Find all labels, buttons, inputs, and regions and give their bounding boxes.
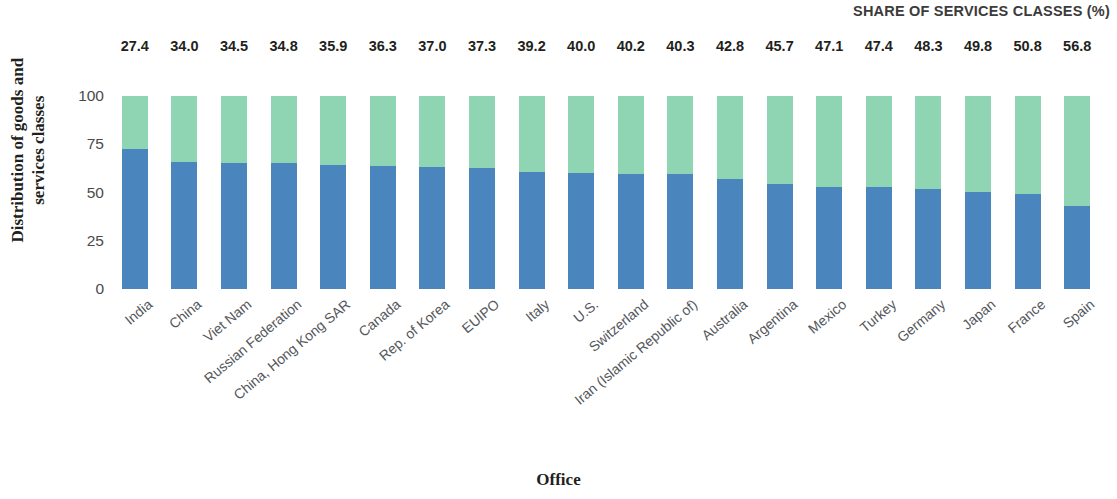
bar-segment-services[interactable] (122, 96, 148, 149)
bar-segment-goods[interactable] (866, 187, 892, 289)
stacked-bar[interactable] (717, 96, 743, 289)
bar-segment-goods[interactable] (667, 174, 693, 289)
x-axis-category-label: Australia (698, 296, 750, 343)
bar-value-label: 34.5 (220, 38, 248, 54)
bar-segment-goods[interactable] (816, 187, 842, 289)
bar-group[interactable] (370, 96, 396, 289)
x-axis-category-label: U.S. (570, 296, 601, 326)
bar-segment-services[interactable] (1064, 96, 1090, 206)
bar-group[interactable] (816, 96, 842, 289)
stacked-bar[interactable] (221, 96, 247, 289)
bar-segment-goods[interactable] (122, 149, 148, 289)
bar-group[interactable] (1064, 96, 1090, 289)
bar-segment-goods[interactable] (1064, 206, 1090, 289)
bar-value-label: 45.7 (765, 38, 793, 54)
bar-segment-services[interactable] (370, 96, 396, 166)
y-axis-tick-75: 75 (87, 135, 104, 153)
bar-value-label: 40.0 (567, 38, 595, 54)
bar-segment-services[interactable] (915, 96, 941, 189)
bar-segment-services[interactable] (965, 96, 991, 192)
bar-group[interactable] (469, 96, 495, 289)
bar-segment-services[interactable] (568, 96, 594, 173)
bar-segment-goods[interactable] (519, 172, 545, 289)
bar-segment-goods[interactable] (469, 168, 495, 289)
bar-group[interactable] (519, 96, 545, 289)
bar-segment-goods[interactable] (370, 166, 396, 289)
bar-segment-goods[interactable] (419, 167, 445, 289)
bar-segment-services[interactable] (320, 96, 346, 165)
y-axis-tick-labels: 1007550250 (56, 96, 104, 289)
stacked-bar[interactable] (370, 96, 396, 289)
bar-segment-goods[interactable] (618, 174, 644, 289)
bar-segment-goods[interactable] (717, 179, 743, 289)
stacked-bar[interactable] (320, 96, 346, 289)
bar-group[interactable] (122, 96, 148, 289)
bar-value-label: 39.2 (517, 38, 545, 54)
bar-segment-goods[interactable] (171, 162, 197, 289)
stacked-bar[interactable] (816, 96, 842, 289)
bar-segment-goods[interactable] (271, 163, 297, 289)
bar-segment-services[interactable] (816, 96, 842, 187)
stacked-bar[interactable] (767, 96, 793, 289)
bar-segment-goods[interactable] (568, 173, 594, 289)
stacked-bar[interactable] (965, 96, 991, 289)
stacked-bar[interactable] (568, 96, 594, 289)
bar-value-label: 40.3 (666, 38, 694, 54)
bar-group[interactable] (1015, 96, 1041, 289)
stacked-bar[interactable] (419, 96, 445, 289)
bar-group[interactable] (618, 96, 644, 289)
stacked-bar[interactable] (915, 96, 941, 289)
stacked-bar[interactable] (1015, 96, 1041, 289)
bar-segment-services[interactable] (519, 96, 545, 172)
bar-segment-services[interactable] (469, 96, 495, 168)
bar-group[interactable] (221, 96, 247, 289)
y-axis-tick-50: 50 (87, 184, 104, 202)
bar-segment-services[interactable] (171, 96, 197, 162)
bar-segment-services[interactable] (717, 96, 743, 179)
bar-segment-goods[interactable] (1015, 194, 1041, 289)
x-axis-title: Office (0, 470, 1117, 490)
share-of-services-classes-header: SHARE OF SERVICES CLASSES (%) (853, 3, 1110, 19)
bar-segment-services[interactable] (419, 96, 445, 167)
bar-segment-goods[interactable] (320, 165, 346, 289)
bar-segment-goods[interactable] (915, 189, 941, 289)
stacked-bar[interactable] (618, 96, 644, 289)
bar-segment-services[interactable] (767, 96, 793, 184)
bar-value-label: 35.9 (319, 38, 347, 54)
bar-group[interactable] (271, 96, 297, 289)
bar-segment-goods[interactable] (965, 192, 991, 289)
bar-value-label: 49.8 (964, 38, 992, 54)
bar-segment-goods[interactable] (221, 163, 247, 289)
stacked-bar[interactable] (469, 96, 495, 289)
bar-group[interactable] (767, 96, 793, 289)
bar-segment-services[interactable] (1015, 96, 1041, 194)
bar-segment-services[interactable] (271, 96, 297, 163)
bar-group[interactable] (965, 96, 991, 289)
x-axis-category-label: China (166, 296, 204, 332)
bar-group[interactable] (866, 96, 892, 289)
bar-group[interactable] (320, 96, 346, 289)
bar-value-label: 37.0 (418, 38, 446, 54)
bar-group[interactable] (915, 96, 941, 289)
bar-segment-services[interactable] (221, 96, 247, 163)
plot-area (110, 96, 1102, 289)
stacked-bar[interactable] (866, 96, 892, 289)
bar-segment-services[interactable] (618, 96, 644, 174)
y-axis-tick-25: 25 (87, 232, 104, 250)
bar-group[interactable] (419, 96, 445, 289)
stacked-bar[interactable] (1064, 96, 1090, 289)
bar-segment-services[interactable] (866, 96, 892, 187)
bar-segment-services[interactable] (667, 96, 693, 174)
bar-group[interactable] (568, 96, 594, 289)
stacked-bar[interactable] (519, 96, 545, 289)
stacked-bar[interactable] (122, 96, 148, 289)
stacked-bar[interactable] (271, 96, 297, 289)
bar-segment-goods[interactable] (767, 184, 793, 289)
chart-container: SHARE OF SERVICES CLASSES (%) Distributi… (0, 0, 1117, 499)
bar-group[interactable] (717, 96, 743, 289)
stacked-bar[interactable] (667, 96, 693, 289)
x-axis-category-label: France (1004, 296, 1048, 336)
bar-group[interactable] (667, 96, 693, 289)
bar-group[interactable] (171, 96, 197, 289)
stacked-bar[interactable] (171, 96, 197, 289)
